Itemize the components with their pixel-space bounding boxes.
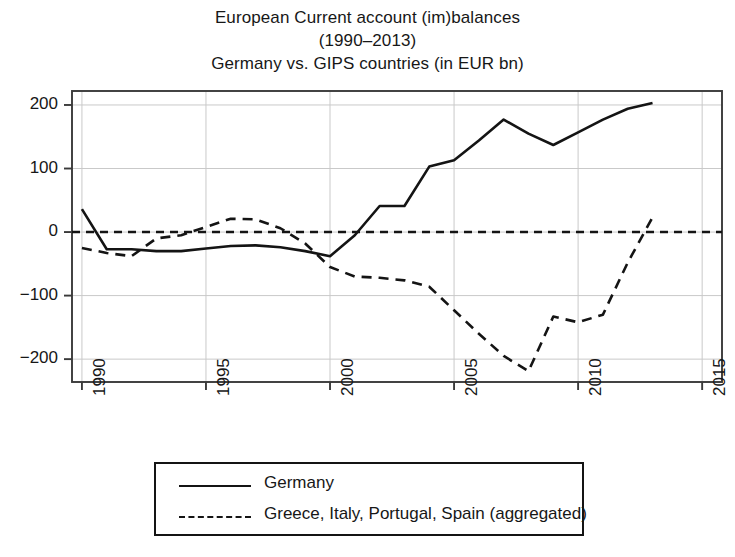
x-tick-label: 2000 bbox=[338, 358, 358, 396]
chart-legend: Germany Greece, Italy, Portugal, Spain (… bbox=[154, 462, 584, 536]
axis-tickmarks bbox=[64, 105, 702, 390]
y-tick-label: −100 bbox=[0, 285, 58, 305]
y-tick-label: 200 bbox=[0, 94, 58, 114]
plot-canvas bbox=[0, 0, 735, 460]
y-tick-label: 100 bbox=[0, 158, 58, 178]
legend-swatch-dashed-line bbox=[179, 516, 251, 518]
legend-swatch-solid-line bbox=[179, 485, 251, 487]
x-tick-label: 2005 bbox=[462, 358, 482, 396]
y-tick-label: 0 bbox=[0, 221, 58, 241]
x-tick-label: 1990 bbox=[90, 358, 110, 396]
legend-item-gips: Greece, Italy, Portugal, Spain (aggregat… bbox=[156, 502, 582, 532]
x-tick-label: 2010 bbox=[586, 358, 606, 396]
legend-item-germany: Germany bbox=[156, 471, 582, 501]
legend-label-germany: Germany bbox=[264, 473, 334, 493]
x-tick-label: 1995 bbox=[214, 358, 234, 396]
legend-label-gips: Greece, Italy, Portugal, Spain (aggregat… bbox=[264, 504, 587, 524]
series-line-greece-italy bbox=[82, 217, 653, 371]
data-series bbox=[82, 103, 653, 371]
chart-figure: European Current account (im)balances (1… bbox=[0, 0, 735, 557]
x-tick-label: 2015 bbox=[710, 358, 730, 396]
y-tick-label: −200 bbox=[0, 348, 58, 368]
plot-area: 2001000−100−200 199019952000200520102015 bbox=[0, 0, 735, 460]
